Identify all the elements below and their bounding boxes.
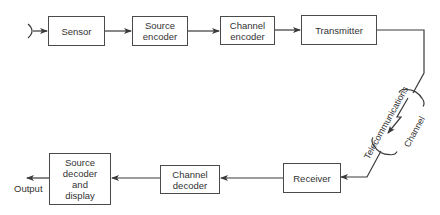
- transmitter-label: Transmitter: [315, 25, 363, 36]
- source-decoder-display-block: Source decoder and display: [49, 153, 111, 205]
- source-encoder-label-line1: Source: [145, 20, 175, 31]
- channel-encoder-block: Channel encoder: [220, 16, 275, 45]
- sdd-label-line2: decoder: [63, 168, 97, 179]
- sdd-label-line3: and: [72, 179, 88, 190]
- channel-decoder-block: Channel decoder: [160, 165, 220, 194]
- channel-encoder-label-line2: encoder: [230, 31, 264, 42]
- sdd-label-line1: Source: [65, 157, 95, 168]
- input-transducer-icon: [28, 24, 32, 38]
- sdd-label-line4: display: [65, 190, 95, 201]
- source-encoder-label-line2: encoder: [143, 31, 177, 42]
- sensor-block: Sensor: [48, 16, 105, 46]
- channel-decoder-label-line1: Channel: [172, 169, 207, 180]
- output-label: Output: [14, 183, 43, 194]
- source-encoder-block: Source encoder: [132, 16, 188, 46]
- channel-encoder-label-line1: Channel: [230, 20, 265, 31]
- sensor-label: Sensor: [61, 26, 91, 37]
- receiver-label: Receiver: [293, 173, 331, 184]
- receiver-block: Receiver: [283, 163, 341, 193]
- transmitter-block: Transmitter: [301, 15, 377, 45]
- channel-decoder-label-line2: decoder: [173, 180, 207, 191]
